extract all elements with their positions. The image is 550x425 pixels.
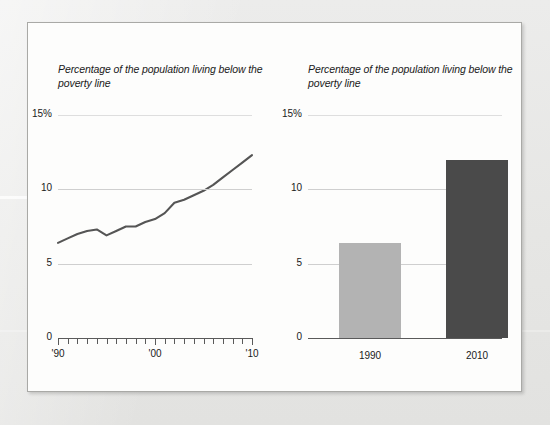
line-chart: Percentage of the population living belo… xyxy=(28,23,278,391)
y-axis-tick-label: 5 xyxy=(46,257,52,268)
y-axis-tick-label: 15% xyxy=(32,108,52,119)
bar-2010 xyxy=(446,160,508,338)
bar-chart: Percentage of the population living belo… xyxy=(278,23,523,391)
x-axis-tick xyxy=(77,338,78,344)
y-axis-tick-label: 0 xyxy=(46,331,52,342)
x-axis-tick xyxy=(58,338,59,345)
x-axis-tick xyxy=(68,338,69,344)
bar-category-label: 2010 xyxy=(466,350,488,361)
gridline-15: 15% xyxy=(308,115,502,116)
y-axis-tick-label: 15% xyxy=(282,108,302,119)
line-chart-title: Percentage of the population living belo… xyxy=(58,63,263,90)
x-axis-label: '90 xyxy=(51,348,64,359)
gridline-15: 15% xyxy=(58,115,252,116)
x-axis-tick xyxy=(87,338,88,344)
x-axis-tick xyxy=(155,338,156,345)
x-axis-tick xyxy=(233,338,234,344)
x-axis-tick xyxy=(126,338,127,344)
bar-chart-plot-area: 051015%19902010 xyxy=(308,115,502,338)
bar-1990 xyxy=(339,243,401,338)
x-axis-tick xyxy=(136,338,137,344)
x-axis-tick xyxy=(184,338,185,344)
x-axis-tick xyxy=(107,338,108,344)
x-axis-tick xyxy=(252,338,253,345)
background-streak-left xyxy=(0,196,30,199)
y-axis-tick-label: 10 xyxy=(291,182,302,193)
x-axis-tick xyxy=(242,338,243,344)
x-axis-tick xyxy=(97,338,98,344)
line-chart-plot-area: 051015%'90'00'10 xyxy=(58,115,252,338)
x-axis-label: '00 xyxy=(148,348,161,359)
x-axis-tick xyxy=(116,338,117,344)
chart-panel: Percentage of the population living belo… xyxy=(27,22,522,392)
y-axis-tick-label: 10 xyxy=(41,182,52,193)
x-axis-tick xyxy=(204,338,205,344)
y-axis-tick-label: 5 xyxy=(296,257,302,268)
x-axis-label: '10 xyxy=(245,348,258,359)
x-axis-tick xyxy=(174,338,175,344)
x-axis-tick xyxy=(194,338,195,344)
x-axis-tick xyxy=(145,338,146,344)
x-axis-tick xyxy=(223,338,224,344)
poverty-trend-line xyxy=(58,115,252,338)
y-axis-tick-label: 0 xyxy=(296,331,302,342)
gridline-10: 10 xyxy=(58,189,252,190)
gridline-0: 0 xyxy=(308,338,502,339)
gridline-5: 5 xyxy=(58,264,252,265)
bar-category-label: 1990 xyxy=(359,350,381,361)
x-axis-tick xyxy=(165,338,166,344)
bar-chart-title: Percentage of the population living belo… xyxy=(308,63,513,90)
x-axis-tick xyxy=(213,338,214,344)
x-axis-tick-marks xyxy=(58,338,252,345)
